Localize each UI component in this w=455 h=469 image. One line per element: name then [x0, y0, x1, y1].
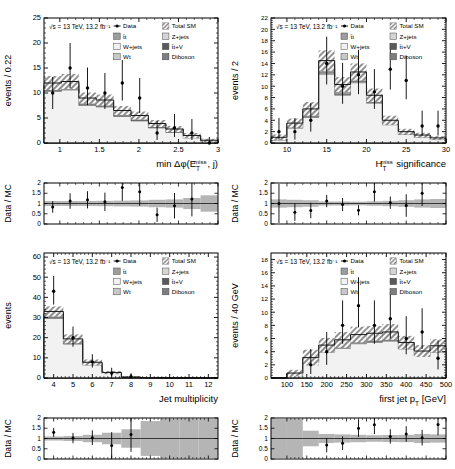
legend-swatch — [162, 258, 169, 264]
x-axis-title: min Δφ(ETmiss, j) — [156, 158, 218, 172]
x-tick-label: 150 — [301, 380, 314, 389]
legend-swatch — [341, 288, 348, 294]
y-tick-label: 10 — [261, 309, 268, 316]
y-axis-title: events / 2 — [230, 61, 240, 100]
y-tick-label: 18 — [261, 256, 268, 263]
ratio-tick-label: 1.5 — [32, 189, 41, 196]
y-axis-title: events / 40 GeV — [230, 283, 240, 348]
ratio-tick-label: 1 — [37, 435, 41, 442]
ratio-tick-label: 2 — [264, 179, 268, 186]
y-tick-label: 20 — [33, 333, 41, 342]
legend-label: t̄t — [350, 33, 354, 40]
x-tick-label: 4 — [52, 380, 56, 389]
legend: DataTotal SMt̄tZ+jetsW+jetst̄t+VWtDiboso… — [114, 257, 196, 295]
ratio-tick-label: 0 — [264, 455, 268, 462]
legend-swatch — [162, 43, 169, 49]
x-axis-title: HTmiss significance — [376, 158, 446, 172]
x-tick-label: 5 — [71, 380, 75, 389]
legend-label: Total SM — [172, 22, 196, 29]
y-tick-label: 2 — [265, 128, 269, 135]
ratio-point — [103, 200, 106, 203]
y-tick-label: 10 — [261, 83, 268, 90]
ratio-axis-title: Data / MC — [3, 184, 13, 223]
ratio-point — [421, 436, 424, 439]
legend-label: Z+jets — [172, 268, 189, 275]
legend-swatch — [390, 278, 397, 284]
ratio-point — [389, 201, 392, 204]
x-tick-label: 15 — [323, 145, 331, 154]
legend-label: Z+jets — [172, 33, 189, 40]
y-tick-label: 20 — [261, 26, 268, 33]
y-tick-label: 12 — [261, 71, 268, 78]
y-tick-label: 0 — [265, 374, 269, 381]
x-tick-label: 25 — [402, 145, 410, 154]
legend-label: t̄t — [123, 33, 127, 40]
ratio-point — [357, 209, 360, 212]
ratio-point — [373, 190, 376, 193]
ratio-point — [190, 197, 193, 200]
x-tick-label: 7 — [110, 380, 114, 389]
ratio-point — [91, 436, 94, 439]
y-tick-label: 12 — [261, 295, 268, 302]
y-tick-label: 40 — [33, 293, 41, 302]
ratio-point — [405, 432, 408, 435]
x-tick-label: 20 — [362, 145, 370, 154]
x-tick-label: 3 — [216, 145, 220, 154]
legend-label: t̄t+V — [172, 43, 184, 50]
ratio-tick-label: 1.5 — [259, 189, 268, 196]
x-tick-label: 100 — [281, 380, 294, 389]
legend-label: Data — [351, 257, 365, 264]
lumi-label: √s = 13 TeV, 13.2 fb⁻¹ — [49, 258, 110, 265]
y-tick-label: 14 — [261, 60, 268, 67]
y-axis-title: events — [3, 302, 13, 329]
y-tick-label: 50 — [33, 273, 41, 282]
svg-text:Jet multiplicity: Jet multiplicity — [159, 393, 218, 404]
x-tick-label: 12 — [204, 380, 212, 389]
legend-label: W+jets — [123, 278, 142, 285]
legend-label: Data — [123, 22, 137, 29]
legend-label: W+jets — [351, 278, 370, 285]
legend-swatch — [162, 33, 169, 39]
legend-swatch — [162, 23, 169, 29]
legend-label: t̄t+V — [399, 43, 411, 50]
x-tick-label: 11 — [185, 380, 193, 389]
legend-label: Wt — [351, 288, 359, 295]
legend-label: Diboson — [172, 288, 195, 295]
ratio-point — [110, 444, 113, 447]
legend-swatch — [390, 258, 397, 264]
stacked-histogram — [44, 311, 218, 378]
ratio-tick-label: 0 — [37, 455, 41, 462]
y-tick-label: 8 — [265, 322, 269, 329]
svg-text:first jet pT [GeV]: first jet pT [GeV] — [379, 393, 446, 407]
y-tick-label: 0 — [37, 373, 41, 382]
y-tick-label: 10 — [33, 88, 41, 97]
x-axis-title: first jet pT [GeV] — [379, 393, 446, 407]
y-tick-label: 20 — [33, 38, 41, 47]
legend-label: Wt — [123, 53, 131, 60]
ratio-point — [389, 435, 392, 438]
legend-label: t̄t+V — [172, 278, 184, 285]
ratio-point — [69, 200, 72, 203]
panel-jet-multiplicity: 4567891011120102030405060eventsJet multi… — [0, 235, 227, 469]
figure-grid: 11.522.530510152025events / 0.22min Δφ(E… — [0, 0, 455, 469]
legend-label: Total SM — [400, 22, 424, 29]
x-tick-label: 1.5 — [94, 145, 104, 154]
ratio-point — [325, 200, 328, 203]
ratio-panel: 00.511.52Data / MC — [230, 179, 446, 227]
legend-label: Z+jets — [400, 33, 417, 40]
x-tick-label: 1 — [58, 145, 62, 154]
legend-label: Diboson — [172, 53, 195, 60]
y-tick-label: 6 — [265, 105, 269, 112]
legend-swatch — [341, 278, 348, 284]
legend-swatch — [114, 288, 121, 294]
ratio-panel: 00.511.52Data / MC — [230, 414, 446, 462]
ratio-point — [52, 431, 55, 434]
legend-label: W+jets — [123, 43, 142, 50]
ratio-tick-label: 0.5 — [32, 445, 41, 452]
ratio-point — [138, 190, 141, 193]
svg-text:HTmiss significance: HTmiss significance — [376, 158, 446, 172]
legend-marker-data — [116, 259, 119, 262]
y-tick-label: 60 — [33, 252, 41, 261]
ratio-tick-label: 0.5 — [32, 210, 41, 217]
legend: DataTotal SMt̄tZ+jetsW+jetst̄t+VWtDiboso… — [341, 257, 424, 295]
